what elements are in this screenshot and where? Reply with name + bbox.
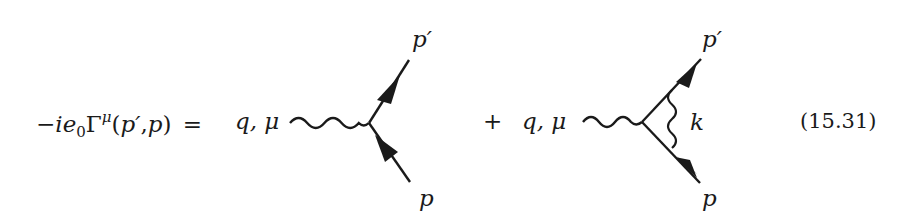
outgoing-arrow-icon (377, 75, 400, 104)
tree-vertex-diagram (290, 60, 410, 182)
photon-line (583, 117, 642, 127)
photon-line (290, 118, 369, 128)
internal-photon-line (668, 90, 676, 148)
loop-vertex-diagram (583, 59, 701, 183)
feynman-diagrams (0, 0, 910, 220)
outgoing-arrow-icon (676, 63, 697, 88)
